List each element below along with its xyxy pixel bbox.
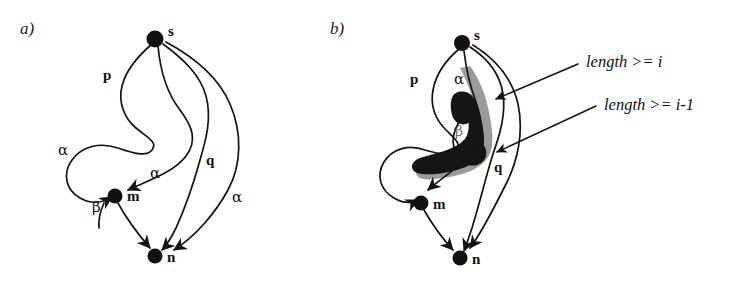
panel-a-edge-alpha-mid <box>128 46 193 190</box>
panel-b-tag: b) <box>330 19 345 38</box>
panel-b-edge-p <box>380 49 459 202</box>
panel-a-edge-q <box>162 44 208 250</box>
panel-b: b) s <box>330 19 694 267</box>
panel-a-label-alpha-left: α <box>58 141 68 159</box>
panel-a-label-q: q <box>206 152 215 168</box>
panel-b-node-s-label: s <box>474 27 480 43</box>
panel-a-node-m <box>108 189 123 204</box>
panel-b-label-p: p <box>410 71 418 87</box>
panel-b-node-m <box>414 196 429 211</box>
panel-b-annotation-length-ge-i: length >= i <box>586 52 663 71</box>
panel-a-node-s <box>147 31 164 48</box>
panel-b-leader-length-ge-i-minus-1 <box>497 106 596 152</box>
panel-a-label-alpha-mid: α <box>150 164 160 182</box>
panel-b-leader-length-ge-i <box>496 64 578 99</box>
panel-a-tag: a) <box>20 19 35 38</box>
panel-a: a) s m n p q α α α <box>20 19 242 265</box>
panel-b-node-s <box>454 35 470 51</box>
figure-container: a) s m n p q α α α <box>0 0 744 283</box>
panel-a-node-s-label: s <box>168 23 174 39</box>
panel-a-edge-beta <box>118 203 150 248</box>
panel-a-node-n-label: n <box>167 249 176 265</box>
panel-a-label-beta: β <box>92 198 101 216</box>
panel-b-edge-beta <box>424 210 453 250</box>
panel-b-label-beta: β <box>455 123 463 139</box>
panel-b-node-m-label: m <box>433 196 446 212</box>
panel-b-label-alpha: α <box>454 70 464 88</box>
panel-a-edge-alpha-right <box>166 42 239 250</box>
panel-a-node-m-label: m <box>127 188 140 204</box>
panel-b-node-n-label: n <box>472 251 481 267</box>
panel-a-label-p: p <box>103 67 111 83</box>
panel-a-node-n <box>148 249 163 264</box>
panel-b-annotation-length-ge-i-minus-1: length >= i-1 <box>604 95 694 114</box>
panel-b-node-n <box>453 251 468 266</box>
figure-svg: a) s m n p q α α α <box>0 0 744 283</box>
panel-b-label-q: q <box>494 159 503 175</box>
panel-a-label-alpha-right: α <box>232 188 242 206</box>
